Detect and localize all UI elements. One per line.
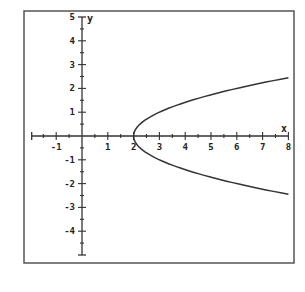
x-tick-label: 6 — [234, 142, 239, 152]
x-tick-label: 7 — [260, 142, 265, 152]
y-tick-label: 1 — [70, 107, 75, 117]
y-tick-label: 3 — [70, 60, 75, 70]
y-tick-label: 4 — [70, 36, 76, 46]
x-tick-label: -1 — [51, 142, 62, 152]
y-tick-label: -4 — [64, 226, 75, 236]
x-tick-label: 1 — [105, 142, 110, 152]
chart-canvas: -11234567854321-1-2-3-4 x y — [0, 0, 305, 292]
x-axis-label: x — [281, 123, 287, 134]
y-tick-label: 5 — [70, 12, 75, 22]
x-tick-label: 4 — [182, 142, 188, 152]
y-axis-label: y — [87, 13, 93, 24]
x-tick-label: 8 — [286, 142, 291, 152]
y-tick-label: -3 — [64, 202, 75, 212]
x-tick-label: 3 — [157, 142, 162, 152]
y-tick-label: -1 — [64, 155, 75, 165]
x-tick-label: 5 — [208, 142, 213, 152]
y-tick-label: 2 — [70, 83, 75, 93]
y-tick-label: -2 — [64, 179, 75, 189]
